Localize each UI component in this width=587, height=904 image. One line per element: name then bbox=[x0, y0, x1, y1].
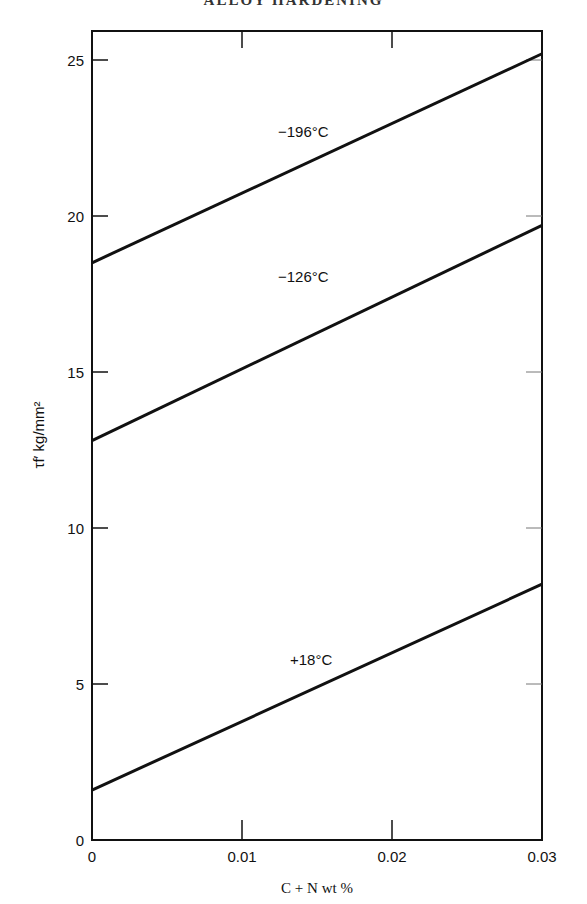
svg-text:0.02: 0.02 bbox=[377, 848, 406, 865]
svg-text:0: 0 bbox=[76, 832, 84, 849]
axis-ticks: 051015202500.010.020.03 bbox=[67, 31, 556, 865]
svg-text:25: 25 bbox=[67, 52, 84, 69]
series-line bbox=[92, 584, 542, 790]
svg-text:15: 15 bbox=[67, 364, 84, 381]
plot-frame bbox=[92, 31, 542, 840]
series-lines bbox=[92, 54, 542, 790]
y-axis-label: τf′ kg/mm² bbox=[30, 401, 47, 468]
chart: 051015202500.010.020.03 −196°C−126°C+18°… bbox=[0, 0, 587, 904]
svg-text:5: 5 bbox=[76, 676, 84, 693]
svg-text:0.01: 0.01 bbox=[227, 848, 256, 865]
series-line bbox=[92, 54, 542, 263]
svg-text:0: 0 bbox=[88, 848, 96, 865]
series-line bbox=[92, 225, 542, 440]
x-axis-label: C + N wt % bbox=[281, 880, 353, 896]
svg-text:0.03: 0.03 bbox=[527, 848, 556, 865]
series-label: −126°C bbox=[278, 268, 329, 285]
svg-text:20: 20 bbox=[67, 208, 84, 225]
series-label: +18°C bbox=[290, 651, 332, 668]
svg-text:10: 10 bbox=[67, 520, 84, 537]
series-labels: −196°C−126°C+18°C bbox=[278, 123, 332, 668]
series-label: −196°C bbox=[278, 123, 329, 140]
